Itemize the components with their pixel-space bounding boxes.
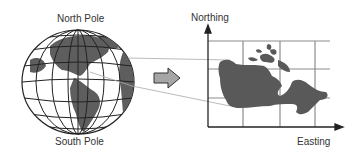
globe <box>22 30 134 134</box>
projection-diagram <box>0 0 359 157</box>
canada-map <box>219 44 328 114</box>
right-arrow-icon <box>154 68 180 88</box>
